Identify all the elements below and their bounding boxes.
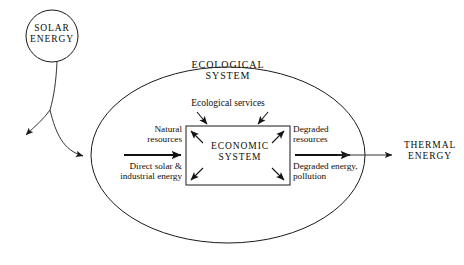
clipped-caption-text bbox=[0, 258, 464, 265]
economic-system-label: ECONOMIC SYSTEM bbox=[193, 141, 287, 162]
reflected-energy-arrow bbox=[26, 110, 50, 135]
direct-solar-industrial-energy-label: Direct solar & industrial energy bbox=[86, 161, 182, 182]
solar-input-arrow bbox=[50, 110, 83, 156]
thermal-energy-label: THERMAL ENERGY bbox=[396, 140, 464, 161]
ecological-services-arrow-left bbox=[197, 112, 207, 124]
diagram-canvas: SOLAR ENERGY ECOLOGICAL SYSTEM Ecologica… bbox=[0, 0, 464, 265]
ecological-services-arrow-right bbox=[258, 112, 268, 124]
solar-energy-label: SOLAR ENERGY bbox=[15, 23, 89, 44]
solar-stem-path bbox=[50, 62, 57, 110]
ecological-services-label: Ecological services bbox=[170, 98, 286, 109]
ecological-system-label: ECOLOGICAL SYSTEM bbox=[168, 59, 288, 81]
degraded-resources-label: Degraded resources bbox=[293, 124, 373, 145]
box-arrow-bottom-right bbox=[272, 168, 284, 180]
degraded-energy-pollution-label: Degraded energy, pollution bbox=[293, 161, 379, 182]
natural-resources-label: Natural resources bbox=[110, 124, 182, 145]
box-arrow-bottom-left bbox=[191, 168, 203, 180]
